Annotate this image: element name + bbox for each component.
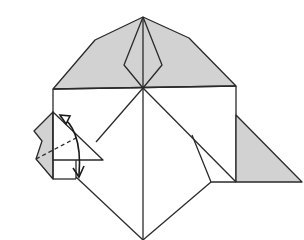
top-shaded-hexagon <box>53 17 236 89</box>
right-shaded-triangle <box>236 115 302 182</box>
origami-diagram <box>0 0 304 240</box>
